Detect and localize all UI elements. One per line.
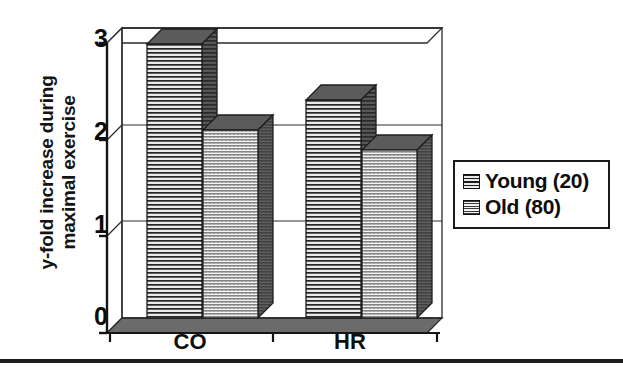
legend: Young (20) Old (80) [453, 160, 610, 229]
legend-item-old: Old (80) [463, 194, 601, 220]
footer-rule [0, 359, 623, 363]
legend-label-old: Old (80) [485, 195, 561, 219]
legend-label-young: Young (20) [485, 169, 589, 193]
legend-item-young: Young (20) [463, 168, 601, 194]
y-axis-spine [99, 43, 107, 333]
x-axis-spine [107, 333, 440, 342]
figure-bar-chart: y-fold increase during maximal exercise … [0, 0, 623, 373]
legend-swatch-young-icon [463, 174, 480, 189]
legend-swatch-old-icon [463, 200, 480, 215]
bar-co-old [203, 115, 273, 318]
bar-hr-old [362, 135, 432, 318]
